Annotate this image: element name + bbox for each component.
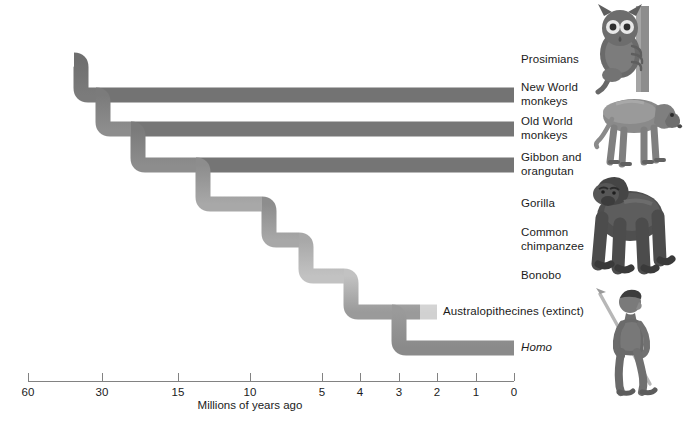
tip-label-common-chimpanzee: Common chimpanzee xyxy=(521,226,584,253)
tip-label-new-world-monkeys: New World monkeys xyxy=(521,81,578,108)
axis-tick-4: 4 xyxy=(357,386,363,398)
axis-tick-2: 2 xyxy=(434,386,440,398)
figure-canvas: Prosimians New World monkeys Old World m… xyxy=(0,0,683,438)
axis-tick-3: 3 xyxy=(396,386,402,398)
gorilla-illustration xyxy=(593,177,672,270)
axis-tick-30: 30 xyxy=(96,386,109,398)
tip-label-bonobo: Bonobo xyxy=(521,269,561,283)
tip-label-australopithecines: Australopithecines (extinct) xyxy=(443,305,584,319)
tip-label-prosimians: Prosimians xyxy=(521,53,579,67)
axis-tick-5: 5 xyxy=(319,386,325,398)
axis-tick-10: 10 xyxy=(244,386,257,398)
axis-tick-0: 0 xyxy=(511,386,517,398)
phylogenetic-tree-svg xyxy=(0,0,683,438)
axis-tick-15: 15 xyxy=(172,386,185,398)
tip-label-gibbon-orangutan: Gibbon and orangutan xyxy=(521,151,581,178)
axis-caption: Millions of years ago xyxy=(198,399,303,411)
axis-tick-60: 60 xyxy=(22,386,35,398)
baboon-illustration xyxy=(596,99,682,164)
tip-label-old-world-monkeys: Old World monkeys xyxy=(521,115,573,142)
time-axis xyxy=(28,373,514,381)
axis-tick-1: 1 xyxy=(473,386,479,398)
australopithecine-fade xyxy=(420,303,440,321)
tip-label-homo: Homo xyxy=(521,341,552,355)
tip-label-gorilla: Gorilla xyxy=(521,197,555,211)
hominid-illustration xyxy=(596,288,655,393)
tarsier-illustration xyxy=(598,4,649,92)
